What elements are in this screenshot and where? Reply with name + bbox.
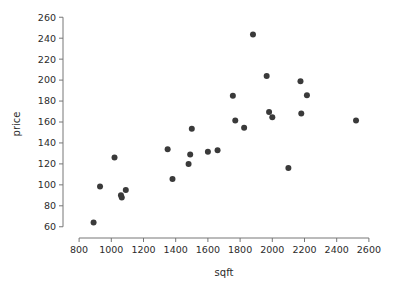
data-point: [250, 32, 256, 38]
y-tick-label: 220: [38, 54, 56, 65]
x-tick-label: 1000: [99, 244, 123, 255]
data-point: [119, 194, 125, 200]
y-tick-label: 160: [38, 116, 56, 127]
x-tick-label: 1400: [164, 244, 188, 255]
x-tick-label: 1600: [196, 244, 220, 255]
data-point: [205, 149, 211, 155]
y-tick-label: 100: [38, 179, 56, 190]
data-point: [186, 161, 192, 167]
y-tick-label: 240: [38, 33, 56, 44]
y-tick-label: 120: [38, 158, 56, 169]
data-point: [298, 111, 304, 117]
data-point: [353, 117, 359, 123]
data-point: [112, 155, 118, 161]
data-point: [169, 176, 175, 182]
x-tick-label: 2600: [357, 244, 381, 255]
data-point: [285, 165, 291, 171]
y-tick-label: 140: [38, 137, 56, 148]
data-point: [241, 125, 247, 131]
scatter-plot-figure: 6080100120140160180200220240260 80010001…: [0, 0, 393, 286]
data-points-layer: [91, 32, 359, 226]
data-point: [232, 117, 238, 123]
y-tick-label: 60: [44, 221, 56, 232]
data-point: [123, 187, 129, 193]
data-point: [165, 146, 171, 152]
data-point: [297, 78, 303, 84]
data-point: [97, 183, 103, 189]
data-point: [187, 151, 193, 157]
x-tick-label: 2200: [292, 244, 316, 255]
y-tick-label: 200: [38, 74, 56, 85]
x-tick-label: 1200: [131, 244, 155, 255]
x-axis-title: sqft: [215, 267, 234, 278]
data-point: [266, 109, 272, 115]
x-tick-label: 2400: [325, 244, 349, 255]
y-axis: 6080100120140160180200220240260: [38, 12, 63, 233]
data-point: [215, 147, 221, 153]
data-point: [269, 114, 275, 120]
data-point: [189, 126, 195, 132]
data-point: [230, 93, 236, 99]
y-tick-label: 260: [38, 12, 56, 23]
x-tick-label: 1800: [228, 244, 252, 255]
x-tick-label: 800: [70, 244, 88, 255]
x-axis: 800100012001400160018002000220024002600: [70, 238, 381, 255]
data-point: [91, 220, 97, 226]
y-tick-label: 80: [44, 200, 56, 211]
y-tick-label: 180: [38, 95, 56, 106]
plot-canvas: 6080100120140160180200220240260 80010001…: [0, 0, 393, 286]
y-axis-title: price: [11, 112, 22, 137]
x-tick-label: 2000: [260, 244, 284, 255]
data-point: [304, 92, 310, 98]
data-point: [264, 73, 270, 79]
